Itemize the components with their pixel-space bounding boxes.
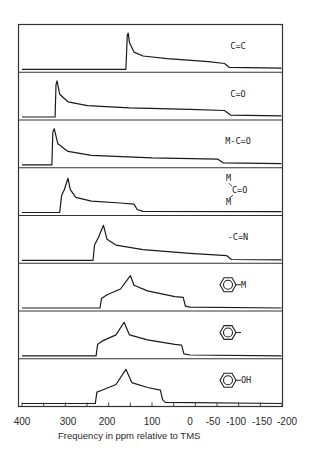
substituent-label: M xyxy=(241,280,246,290)
label-atom-bottom: M xyxy=(226,197,231,207)
spectrum-trace-5 xyxy=(22,225,282,260)
label-atom-top: M xyxy=(226,173,231,183)
spectrum-label-bridged-carbonyl: MC=OM xyxy=(226,173,247,207)
nmr-stacked-spectra-chart: C=CC=OM-C=OMC=OM-C=NMOH 4003002001000-50… xyxy=(0,0,313,464)
aromatic-circle xyxy=(224,280,233,289)
benzene-ring-icon: OH xyxy=(220,373,251,387)
benzene-ring-icon xyxy=(220,326,241,340)
x-tick-label: 200 xyxy=(99,416,116,427)
benzene-ring-icon: M xyxy=(220,278,246,292)
x-tick-label: 300 xyxy=(60,416,77,427)
x-tick-label: 400 xyxy=(14,416,31,427)
spectrum-trace-7 xyxy=(22,322,282,356)
aromatic-circle xyxy=(224,328,233,337)
spectrum-trace-3 xyxy=(22,129,282,165)
x-tick-label: -50 xyxy=(206,416,221,427)
label-carbonyl: C=O xyxy=(232,185,247,195)
x-axis-label: Frequency in ppm relative to TMS xyxy=(58,430,200,441)
x-axis-tick-labels: 4003002001000-50-100-150-200 xyxy=(14,416,298,427)
spectrum-trace-1 xyxy=(22,33,282,69)
substituent-label: OH xyxy=(241,375,251,385)
panel-labels: C=CC=OM-C=OMC=OM-C=NMOH xyxy=(220,41,251,387)
x-tick-label: 0 xyxy=(187,416,193,427)
spectrum-trace-4 xyxy=(22,178,282,212)
spectrum-label: -C=N xyxy=(228,232,248,242)
x-tick-label: 100 xyxy=(144,416,161,427)
spectrum-label: C=O xyxy=(230,89,245,99)
spectrum-trace-2 xyxy=(22,81,282,117)
spectrum-label: C=C xyxy=(230,41,245,51)
x-tick-label: -200 xyxy=(277,416,297,427)
aromatic-circle xyxy=(224,376,233,385)
x-tick-label: -150 xyxy=(252,416,272,427)
spectrum-label: M-C=O xyxy=(225,136,251,146)
x-tick-label: -100 xyxy=(226,416,246,427)
